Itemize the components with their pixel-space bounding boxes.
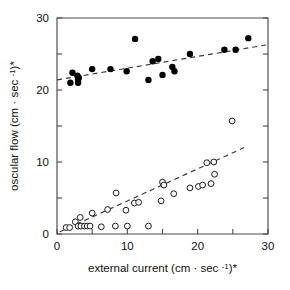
y-tick-label-0: 0 [43,228,49,240]
data-point-open-circles-4 [77,215,83,221]
data-point-filled-circles-18 [232,46,238,52]
data-point-filled-circles-19 [245,35,251,41]
data-point-open-circles-23 [187,185,193,191]
data-point-open-circles-25 [200,182,206,188]
data-point-open-circles-17 [136,199,142,205]
data-point-open-circles-1 [67,225,73,231]
y-tick-label-30: 30 [36,12,49,24]
scatter-plot-figure: 01020300102030external current (cm · sec… [0,0,290,290]
data-point-filled-circles-16 [187,51,193,57]
data-point-filled-circles-17 [221,46,227,52]
data-point-open-circles-28 [211,159,217,165]
data-point-open-circles-22 [171,191,177,197]
x-tick-label-30: 30 [262,240,275,252]
y-tick-label-10: 10 [36,156,49,168]
data-point-open-circles-10 [98,224,104,230]
y-axis-title: oscular flow (cm · sec -1)* [8,61,21,191]
y-tick-label-20: 20 [36,84,49,96]
x-tick-label-20: 20 [191,240,204,252]
data-point-open-circles-18 [146,223,152,229]
x-tick-label-10: 10 [121,240,134,252]
data-point-filled-circles-0 [67,80,73,86]
data-point-filled-circles-10 [145,77,151,83]
data-point-filled-circles-12 [155,56,161,62]
data-point-open-circles-26 [204,160,210,166]
plot-canvas: 01020300102030external current (cm · sec… [0,0,290,290]
data-point-open-circles-19 [158,198,164,204]
data-point-open-circles-11 [105,207,111,213]
data-point-open-circles-30 [229,118,235,124]
data-point-filled-circles-11 [149,58,155,64]
data-point-filled-circles-8 [123,68,129,74]
y-axis-title-prefix: oscular flow (cm · sec [8,77,20,191]
data-point-open-circles-21 [161,182,167,188]
x-axis-title-suffix: )* [229,262,238,274]
data-point-open-circles-15 [124,223,130,229]
data-point-open-circles-12 [113,190,119,196]
data-point-filled-circles-6 [89,66,95,72]
data-point-open-circles-14 [123,207,129,213]
data-point-open-circles-9 [89,210,95,216]
x-tick-label-0: 0 [54,240,60,252]
data-point-filled-circles-9 [132,36,138,42]
data-point-filled-circles-7 [107,66,113,72]
data-point-filled-circles-13 [159,72,165,78]
data-point-filled-circles-5 [75,80,81,86]
data-point-filled-circles-15 [171,68,177,74]
data-point-open-circles-13 [112,223,118,229]
x-axis-title: external current (cm · sec -1)* [88,262,238,275]
data-point-open-circles-29 [212,171,218,177]
data-point-open-circles-8 [87,223,93,229]
y-axis-title-suffix: )* [8,61,20,70]
x-axis-title-prefix: external current (cm · sec [88,262,222,274]
data-point-open-circles-27 [208,181,214,187]
